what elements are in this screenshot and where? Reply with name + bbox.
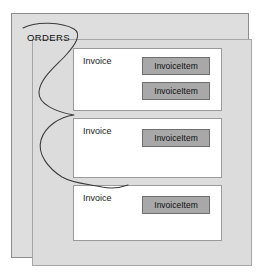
diagram-canvas: ORDERS Invoice InvoiceItem InvoiceItem I… (0, 0, 261, 276)
invoice-item-box: InvoiceItem (142, 129, 210, 147)
invoice-item-box: InvoiceItem (142, 196, 210, 214)
invoice-label: Invoice (83, 126, 112, 136)
invoice-entity-box: Invoice InvoiceItem InvoiceItem (73, 48, 222, 111)
invoice-label: Invoice (83, 56, 112, 66)
invoice-label: Invoice (83, 193, 112, 203)
invoice-item-box: InvoiceItem (142, 57, 210, 75)
invoice-entity-box: Invoice InvoiceItem (73, 185, 222, 241)
orders-aggregate-label: ORDERS (27, 32, 70, 43)
invoice-item-box: InvoiceItem (142, 82, 210, 100)
invoice-entity-box: Invoice InvoiceItem (73, 118, 222, 178)
